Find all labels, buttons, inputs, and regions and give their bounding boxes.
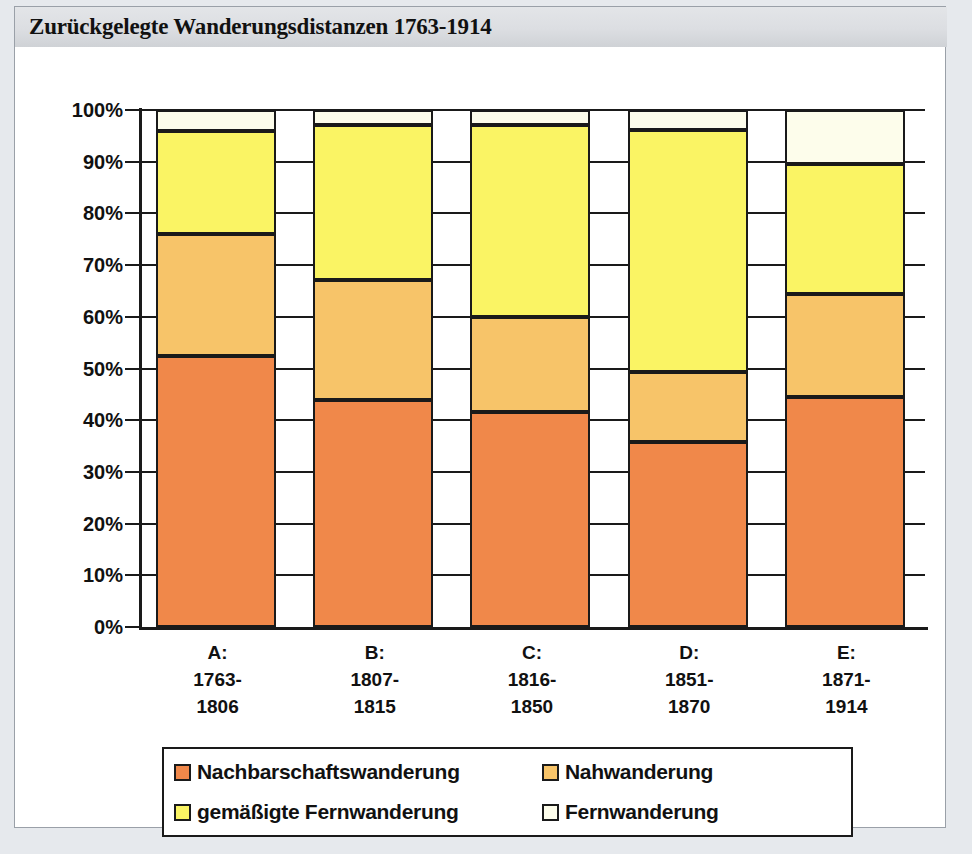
bar-segment[interactable] <box>156 356 276 627</box>
bar-segment[interactable] <box>785 397 905 627</box>
y-axis-tick-label: 100% <box>72 99 123 122</box>
y-axis-tick-mark <box>125 523 139 525</box>
bar-segment[interactable] <box>313 125 433 280</box>
y-axis-tick-label: 40% <box>83 409 123 432</box>
legend-label: Nachbarschaftswanderung <box>197 760 460 784</box>
x-axis-line <box>139 627 928 630</box>
y-axis-tick-label: 20% <box>83 512 123 535</box>
legend-swatch-icon <box>174 804 191 821</box>
y-axis-tick-mark <box>125 161 139 163</box>
y-axis-tick-mark <box>125 109 139 111</box>
x-axis-label-line: 1914 <box>766 693 926 720</box>
bar-segment[interactable] <box>628 442 748 627</box>
legend-swatch-icon <box>542 804 559 821</box>
x-axis-label-line: 1816- <box>452 666 612 693</box>
legend-label: Nahwanderung <box>565 760 713 784</box>
page-root: Zurückgelegte Wanderungsdistanzen 1763-1… <box>0 0 972 854</box>
stacked-bar[interactable] <box>313 110 433 627</box>
y-axis-tick-mark <box>125 212 139 214</box>
bar-segment[interactable] <box>628 372 748 442</box>
x-axis-label-line: B: <box>295 639 455 666</box>
y-axis-tick-label: 80% <box>83 202 123 225</box>
bar-segment[interactable] <box>470 317 590 412</box>
x-axis-label-line: 1763- <box>138 666 298 693</box>
y-axis-tick-mark <box>125 471 139 473</box>
legend-row-2: gemäßigte FernwanderungFernwanderung <box>174 793 842 831</box>
bar-segment[interactable] <box>785 294 905 398</box>
legend-item[interactable]: Nachbarschaftswanderung <box>174 760 460 784</box>
x-axis-label-line: 1870 <box>609 693 769 720</box>
bar-segment[interactable] <box>156 234 276 356</box>
y-axis-tick-label: 60% <box>83 305 123 328</box>
page-title: Zurückgelegte Wanderungsdistanzen 1763-1… <box>29 14 492 40</box>
bar-segment[interactable] <box>470 110 590 125</box>
chart-legend: NachbarschaftswanderungNahwanderung gemä… <box>162 747 853 837</box>
x-axis-label-line: 1806 <box>138 693 298 720</box>
y-axis-tick-label: 70% <box>83 254 123 277</box>
chart-container: 0%10%20%30%40%50%60%70%80%90%100% A:1763… <box>15 47 947 829</box>
y-axis-tick-mark <box>125 574 139 576</box>
bar-segment[interactable] <box>470 125 590 317</box>
legend-label: Fernwanderung <box>565 800 719 824</box>
y-axis-tick-label: 0% <box>94 616 123 639</box>
x-axis-label-line: 1850 <box>452 693 612 720</box>
y-axis-tick-label: 10% <box>83 564 123 587</box>
y-axis-tick-mark <box>125 626 139 628</box>
x-axis-label: C:1816-1850 <box>452 639 612 720</box>
x-axis-label-line: 1851- <box>609 666 769 693</box>
stacked-bar[interactable] <box>156 110 276 627</box>
y-axis-tick-label: 90% <box>83 150 123 173</box>
stacked-bar[interactable] <box>470 110 590 627</box>
y-axis-tick-labels: 0%10%20%30%40%50%60%70%80%90%100% <box>15 110 123 627</box>
x-axis-label: D:1851-1870 <box>609 639 769 720</box>
bar-segment[interactable] <box>313 110 433 125</box>
y-axis-tick-label: 30% <box>83 460 123 483</box>
x-axis-label: A:1763-1806 <box>138 639 298 720</box>
title-banner: Zurückgelegte Wanderungsdistanzen 1763-1… <box>15 7 947 47</box>
chart-paper: Zurückgelegte Wanderungsdistanzen 1763-1… <box>14 6 946 828</box>
legend-item[interactable]: Fernwanderung <box>542 800 719 824</box>
stacked-bar[interactable] <box>628 110 748 627</box>
bar-segment[interactable] <box>785 110 905 164</box>
stacked-bar[interactable] <box>785 110 905 627</box>
y-axis-tick-mark <box>125 419 139 421</box>
x-axis-label: B:1807-1815 <box>295 639 455 720</box>
x-axis-category-labels: A:1763-1806B:1807-1815C:1816-1850D:1851-… <box>139 639 925 749</box>
y-axis-tick-mark <box>125 316 139 318</box>
legend-swatch-icon <box>174 764 191 781</box>
x-axis-label-line: C: <box>452 639 612 666</box>
y-axis-tick-label: 50% <box>83 357 123 380</box>
x-axis-label-line: 1871- <box>766 666 926 693</box>
bar-segment[interactable] <box>785 164 905 293</box>
x-axis-label-line: D: <box>609 639 769 666</box>
bar-segment[interactable] <box>156 110 276 131</box>
plot-area <box>139 110 925 627</box>
bar-segment[interactable] <box>156 131 276 234</box>
legend-row-1: NachbarschaftswanderungNahwanderung <box>174 753 842 791</box>
legend-item[interactable]: gemäßigte Fernwanderung <box>174 800 458 824</box>
legend-swatch-icon <box>542 764 559 781</box>
bar-segment[interactable] <box>313 280 433 400</box>
x-axis-label-line: 1807- <box>295 666 455 693</box>
bar-segment[interactable] <box>470 412 590 627</box>
x-axis-label-line: 1815 <box>295 693 455 720</box>
legend-label: gemäßigte Fernwanderung <box>197 800 458 824</box>
y-axis-tick-mark <box>125 368 139 370</box>
x-axis-label: E:1871-1914 <box>766 639 926 720</box>
bar-segment[interactable] <box>628 130 748 372</box>
bar-segment[interactable] <box>313 400 433 627</box>
bar-segment[interactable] <box>628 110 748 130</box>
y-axis-tick-mark <box>125 264 139 266</box>
x-axis-label-line: E: <box>766 639 926 666</box>
x-axis-label-line: A: <box>138 639 298 666</box>
legend-item[interactable]: Nahwanderung <box>542 760 713 784</box>
